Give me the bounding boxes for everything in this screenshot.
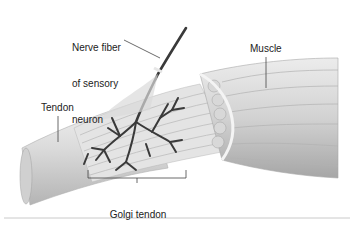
tendon-end	[20, 148, 32, 204]
nerve-fiber-label-line1: Nerve fiber	[72, 42, 121, 54]
nerve-leader-line	[124, 40, 160, 58]
nerve-fiber-label-line3: neuron	[72, 114, 121, 126]
golgi-tendon-organ-diagram: Nerve fiber of sensory neuron Muscle Ten…	[0, 0, 354, 226]
nerve-fiber-label: Nerve fiber of sensory neuron	[72, 18, 121, 150]
golgi-tendon-organ-label: Golgi tendon organ	[102, 185, 174, 226]
muscle-label: Muscle	[250, 43, 282, 55]
nerve-fiber-label-line2: of sensory	[72, 78, 121, 90]
golgi-label-line1: Golgi tendon	[102, 209, 174, 221]
tendon-label: Tendon	[41, 102, 74, 114]
